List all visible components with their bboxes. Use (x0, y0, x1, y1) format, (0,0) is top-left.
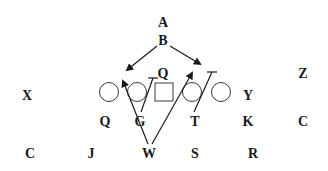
label-row3-s: S (191, 146, 199, 161)
label-row2-k: K (243, 114, 254, 129)
label-x: X (22, 88, 32, 103)
play-diagram: A B Q X Y Z Q G T K C C J W S R (0, 0, 328, 171)
label-row3-j: J (88, 146, 95, 161)
route-b-left-arrow (127, 46, 157, 70)
center-square-icon (155, 83, 173, 101)
right-tackle-circle-icon (212, 83, 231, 102)
label-b: B (158, 33, 167, 48)
route-b-right-arrow (170, 46, 200, 64)
label-row2-q: Q (100, 114, 111, 129)
label-row3-r: R (248, 146, 259, 161)
label-row2-t: T (190, 114, 200, 129)
label-z: Z (298, 66, 307, 81)
left-tackle-circle-icon (100, 83, 119, 102)
label-row3-c: C (25, 146, 35, 161)
label-row2-c: C (298, 114, 308, 129)
label-a: A (158, 15, 169, 30)
label-row3-w: W (142, 146, 156, 161)
label-center-q: Q (158, 66, 169, 81)
label-y: Y (243, 88, 253, 103)
